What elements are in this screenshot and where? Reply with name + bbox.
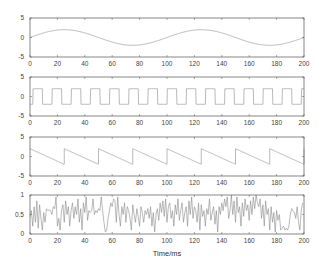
y-tick-label: 0 <box>20 93 24 100</box>
x-tick-label: 60 <box>109 179 117 186</box>
x-tick-label: 80 <box>136 60 144 67</box>
x-tick-label: 140 <box>216 60 227 67</box>
x-tick-label: 120 <box>189 60 200 67</box>
x-tick-label: 40 <box>81 237 89 244</box>
x-tick-label: 180 <box>271 179 282 186</box>
x-tick-label: 80 <box>136 179 144 186</box>
x-tick-label: 160 <box>244 60 255 67</box>
y-tick-label: -5 <box>18 172 24 179</box>
y-tick-label: 0 <box>20 153 24 160</box>
x-tick-label: 80 <box>136 119 144 126</box>
y-tick-label: 1 <box>20 191 24 198</box>
series-line-sine <box>30 30 304 46</box>
x-tick-label: 120 <box>189 237 200 244</box>
subplot-sawtooth: 02040608010012014016018020050-5 <box>18 133 310 186</box>
x-tick-label: 140 <box>216 179 227 186</box>
x-tick-label: 200 <box>299 237 310 244</box>
subplot-random-noise: 02040608010012014016018020010.50 <box>15 191 310 244</box>
x-tick-label: 160 <box>244 119 255 126</box>
x-tick-label: 60 <box>109 237 117 244</box>
series-line-sawtooth <box>30 149 304 164</box>
x-tick-label: 200 <box>299 119 310 126</box>
y-tick-label: 0 <box>20 34 24 41</box>
x-tick-label: 160 <box>244 237 255 244</box>
x-tick-label: 20 <box>54 119 62 126</box>
x-tick-label: 100 <box>162 60 173 67</box>
x-tick-label: 100 <box>162 237 173 244</box>
subplot-sine: 02040608010012014016018020050-5 <box>18 14 310 67</box>
y-tick-label: 0 <box>20 230 24 237</box>
x-tick-label: 40 <box>81 179 89 186</box>
x-tick-label: 120 <box>189 179 200 186</box>
x-tick-label: 100 <box>162 119 173 126</box>
x-tick-label: 0 <box>28 60 32 67</box>
y-tick-label: 5 <box>20 14 24 21</box>
x-tick-label: 100 <box>162 179 173 186</box>
x-tick-label: 80 <box>136 237 144 244</box>
y-tick-label: -5 <box>18 112 24 119</box>
figure: 02040608010012014016018020050-5020406080… <box>0 0 323 268</box>
x-tick-label: 180 <box>271 119 282 126</box>
x-tick-label: 40 <box>81 119 89 126</box>
x-tick-label: 0 <box>28 179 32 186</box>
x-tick-label: 60 <box>109 119 117 126</box>
axes-frame <box>30 195 304 234</box>
x-axis-label: Time/ms <box>153 249 182 258</box>
subplot-square: 02040608010012014016018020050-5 <box>18 73 310 126</box>
x-tick-label: 180 <box>271 237 282 244</box>
series-line-square <box>30 89 304 105</box>
y-tick-label: 5 <box>20 73 24 80</box>
x-tick-label: 120 <box>189 119 200 126</box>
x-tick-label: 20 <box>54 60 62 67</box>
x-tick-label: 0 <box>28 237 32 244</box>
x-tick-label: 60 <box>109 60 117 67</box>
x-tick-label: 200 <box>299 179 310 186</box>
y-tick-label: 5 <box>20 133 24 140</box>
x-tick-label: 180 <box>271 60 282 67</box>
y-tick-label: -5 <box>18 53 24 60</box>
x-tick-label: 40 <box>81 60 89 67</box>
subplot-stack: 02040608010012014016018020050-5020406080… <box>15 14 310 244</box>
y-tick-label: 0.5 <box>15 211 24 218</box>
x-tick-label: 20 <box>54 237 62 244</box>
x-tick-label: 160 <box>244 179 255 186</box>
x-tick-label: 200 <box>299 60 310 67</box>
x-tick-label: 140 <box>216 237 227 244</box>
series-line-random-noise <box>30 195 303 232</box>
x-tick-label: 0 <box>28 119 32 126</box>
x-tick-label: 140 <box>216 119 227 126</box>
x-tick-label: 20 <box>54 179 62 186</box>
